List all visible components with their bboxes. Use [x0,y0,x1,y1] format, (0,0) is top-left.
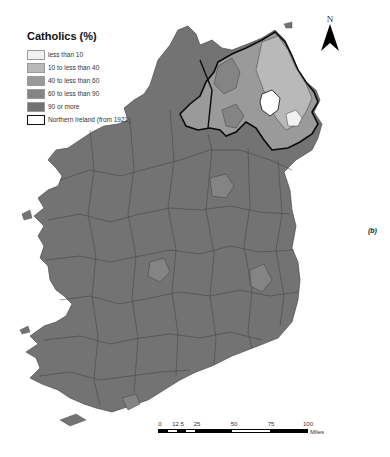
scale-ticks: 0 12.5 25 50 75 100 [158,421,328,429]
scale-tick: 0 [158,421,161,427]
panel-label: (b) [368,227,377,234]
scale-bar: 0 12.5 25 50 75 100 Miles [158,421,328,433]
north-letter: N [318,14,342,24]
legend: Catholics (%) less than 10 10 to less th… [27,30,130,126]
scale-unit: Miles [310,429,324,435]
north-arrow: N [318,14,342,56]
legend-label: 90 or more [48,103,79,110]
legend-item-less-than-10: less than 10 [27,48,130,61]
legend-swatch [27,63,45,73]
legend-swatch [27,89,45,99]
legend-item-60-to-90: 60 to less than 90 [27,87,130,100]
scale-tick: 75 [268,421,275,427]
legend-label: less than 10 [48,51,83,58]
legend-label: Northern Ireland (from 1921) [48,116,130,123]
scale-tick: 50 [231,421,238,427]
scale-bar-graphic [158,429,308,433]
legend-swatch [27,102,45,112]
north-arrow-icon [320,24,340,52]
scale-tick: 25 [194,421,201,427]
legend-title: Catholics (%) [27,30,130,42]
legend-item-90-or-more: 90 or more [27,100,130,113]
legend-swatch-outline [27,115,45,125]
scale-tick: 100 [303,421,313,427]
legend-swatch [27,50,45,60]
legend-item-10-to-40: 10 to less than 40 [27,61,130,74]
legend-label: 40 to less than 60 [48,77,99,84]
scale-tick: 12.5 [172,421,184,427]
legend-label: 10 to less than 40 [48,64,99,71]
legend-item-40-to-60: 40 to less than 60 [27,74,130,87]
legend-label: 60 to less than 90 [48,90,99,97]
legend-swatch [27,76,45,86]
legend-item-northern-ireland: Northern Ireland (from 1921) [27,113,130,126]
